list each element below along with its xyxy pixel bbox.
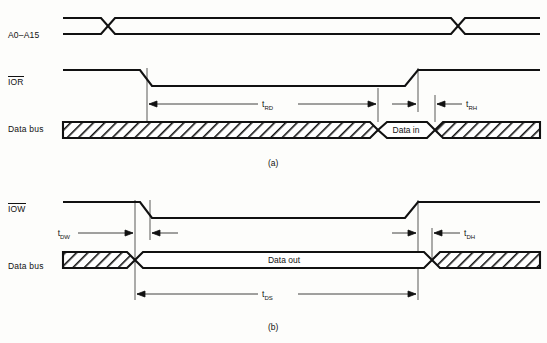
timing-mark-tdh xyxy=(434,230,460,236)
reference-lines-write xyxy=(135,200,432,300)
timing-label-tds: tDS xyxy=(262,289,273,301)
waveform-data-bus-write xyxy=(63,252,540,268)
timing-mark-gap-write-left xyxy=(152,230,178,236)
data-window-label-data-out: Data out xyxy=(268,255,301,265)
timing-label-tdw: tDW xyxy=(58,228,71,240)
timing-waveforms-write: tDW tDH Data out xyxy=(0,0,547,343)
timing-mark-tdw xyxy=(78,230,133,236)
timing-mark-gap-write-right xyxy=(392,230,416,236)
timing-label-tdh: tDH xyxy=(464,228,475,240)
timing-mark-tds xyxy=(137,291,416,297)
timing-diagram-figure: A0–A15 IOR Data bus xyxy=(0,0,547,343)
waveform-iow xyxy=(63,202,540,218)
panel-caption-b: (b) xyxy=(268,322,278,332)
